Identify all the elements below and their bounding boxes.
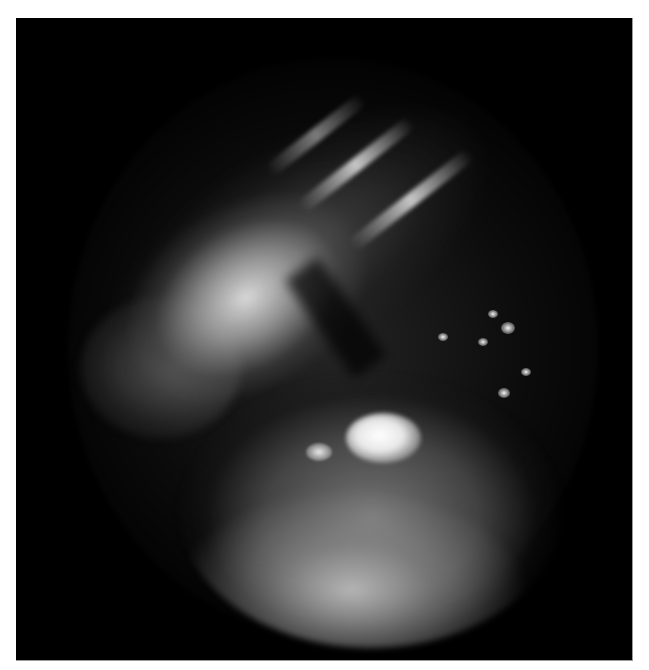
specular-highlight [478,338,488,346]
small-highlight [306,443,332,461]
photo-frame [16,18,633,661]
specular-highlight [498,388,510,398]
page [0,0,649,670]
specular-highlight [521,368,531,376]
central-highlight [346,413,421,463]
specular-highlight [501,322,515,334]
specular-highlight [488,310,498,318]
lower-mass [176,358,566,648]
specular-highlight [438,333,448,341]
